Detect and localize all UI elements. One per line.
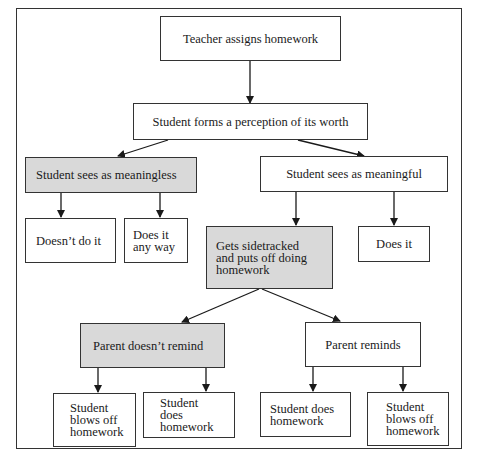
node-label: Gets sidetracked and puts off doing home… [216, 240, 307, 276]
node-label: Doesn’t do it [36, 235, 101, 247]
node-label: Student forms a perception of its worth [153, 116, 349, 128]
node-label: Does it any way [133, 229, 175, 253]
node-parent-doesnt-remind: Parent doesn’t remind [80, 323, 225, 368]
node-label: Student does homework [270, 403, 334, 427]
node-sees-meaningful: Student sees as meaningful [260, 156, 448, 192]
node-parent-reminds: Parent reminds [305, 322, 421, 367]
node-label: Student blows off homework [386, 401, 439, 437]
node-teacher-assigns-homework: Teacher assigns homework [160, 16, 341, 61]
node-student-does-homework-1: Student does homework [143, 392, 235, 438]
node-student-forms-perception: Student forms a perception of its worth [133, 103, 368, 140]
node-label: Student does homework [160, 397, 218, 433]
node-student-blows-off-homework-1: Student blows off homework [53, 393, 136, 447]
node-label: Teacher assigns homework [183, 33, 318, 45]
node-does-it: Does it [358, 226, 430, 262]
node-gets-sidetracked: Gets sidetracked and puts off doing home… [206, 226, 333, 289]
node-student-blows-off-homework-2: Student blows off homework [367, 392, 449, 446]
node-label: Does it [376, 238, 412, 250]
node-label: Student blows off homework [70, 402, 123, 438]
node-label: Student sees as meaningless [36, 169, 177, 181]
node-label: Parent reminds [325, 339, 400, 351]
node-does-it-any-way: Does it any way [124, 218, 188, 263]
node-doesnt-do-it: Doesn’t do it [25, 218, 116, 263]
node-label: Student sees as meaningful [286, 168, 422, 180]
node-label: Parent doesn’t remind [93, 340, 203, 352]
node-sees-meaningless: Student sees as meaningless [25, 157, 197, 193]
node-student-does-homework-2: Student does homework [260, 392, 351, 437]
